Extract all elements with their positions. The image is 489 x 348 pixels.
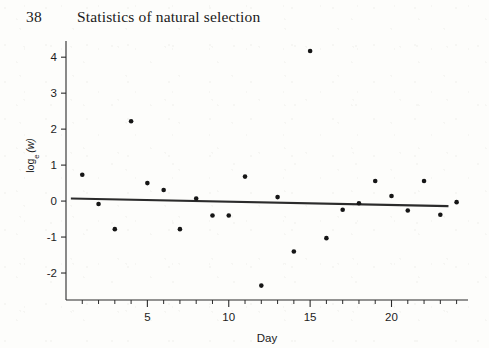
y-axis-ticks: 43210-1-2 <box>47 51 66 279</box>
scatter-point <box>178 227 183 232</box>
regression-line-path <box>71 199 449 207</box>
x-tick-label: 5 <box>144 311 150 323</box>
y-tick-label: -1 <box>47 231 57 243</box>
scatter-point <box>210 213 215 218</box>
scatter-point <box>243 174 248 179</box>
scatter-point <box>145 181 150 186</box>
axes <box>66 41 468 300</box>
scatter-point <box>373 179 378 184</box>
x-axis-ticks: 5101520 <box>82 300 456 323</box>
scatter-point <box>96 202 101 207</box>
scatter-point <box>357 201 362 206</box>
x-tick-label: 10 <box>222 311 235 323</box>
scatter-point <box>454 200 459 205</box>
plot-canvas: 43210-1-2 5101520 Dayloge(w) <box>0 0 489 348</box>
data-points <box>80 49 459 288</box>
scatter-point <box>324 236 329 241</box>
scatter-point <box>259 283 264 288</box>
x-axis-title: Day <box>257 332 278 344</box>
y-tick-label: 1 <box>51 159 57 171</box>
y-tick-label: -2 <box>47 267 57 279</box>
scatter-point <box>438 212 443 217</box>
scatter-point <box>422 179 427 184</box>
scatter-point <box>389 194 394 199</box>
scatter-point <box>275 195 280 200</box>
y-axis-title: loge(w) <box>24 138 41 172</box>
scatter-point <box>113 227 118 232</box>
y-tick-label: 4 <box>51 51 58 63</box>
scatter-plot-figure: 43210-1-2 5101520 Dayloge(w) <box>0 0 489 348</box>
axis-labels: Dayloge(w) <box>24 138 277 344</box>
scatter-point <box>129 119 134 124</box>
scatter-point <box>161 188 166 193</box>
scatter-point <box>340 207 345 212</box>
x-tick-label: 20 <box>385 311 398 323</box>
regression-line <box>71 199 449 207</box>
x-tick-label: 15 <box>304 311 317 323</box>
y-tick-label: 3 <box>51 87 57 99</box>
scatter-point <box>194 196 199 201</box>
y-tick-label: 2 <box>51 123 57 135</box>
y-tick-label: 0 <box>51 195 57 207</box>
scatter-point <box>80 173 85 178</box>
scatter-point <box>226 213 231 218</box>
scatter-point <box>405 208 410 213</box>
scatter-point <box>292 249 297 254</box>
scatter-point <box>308 49 313 54</box>
